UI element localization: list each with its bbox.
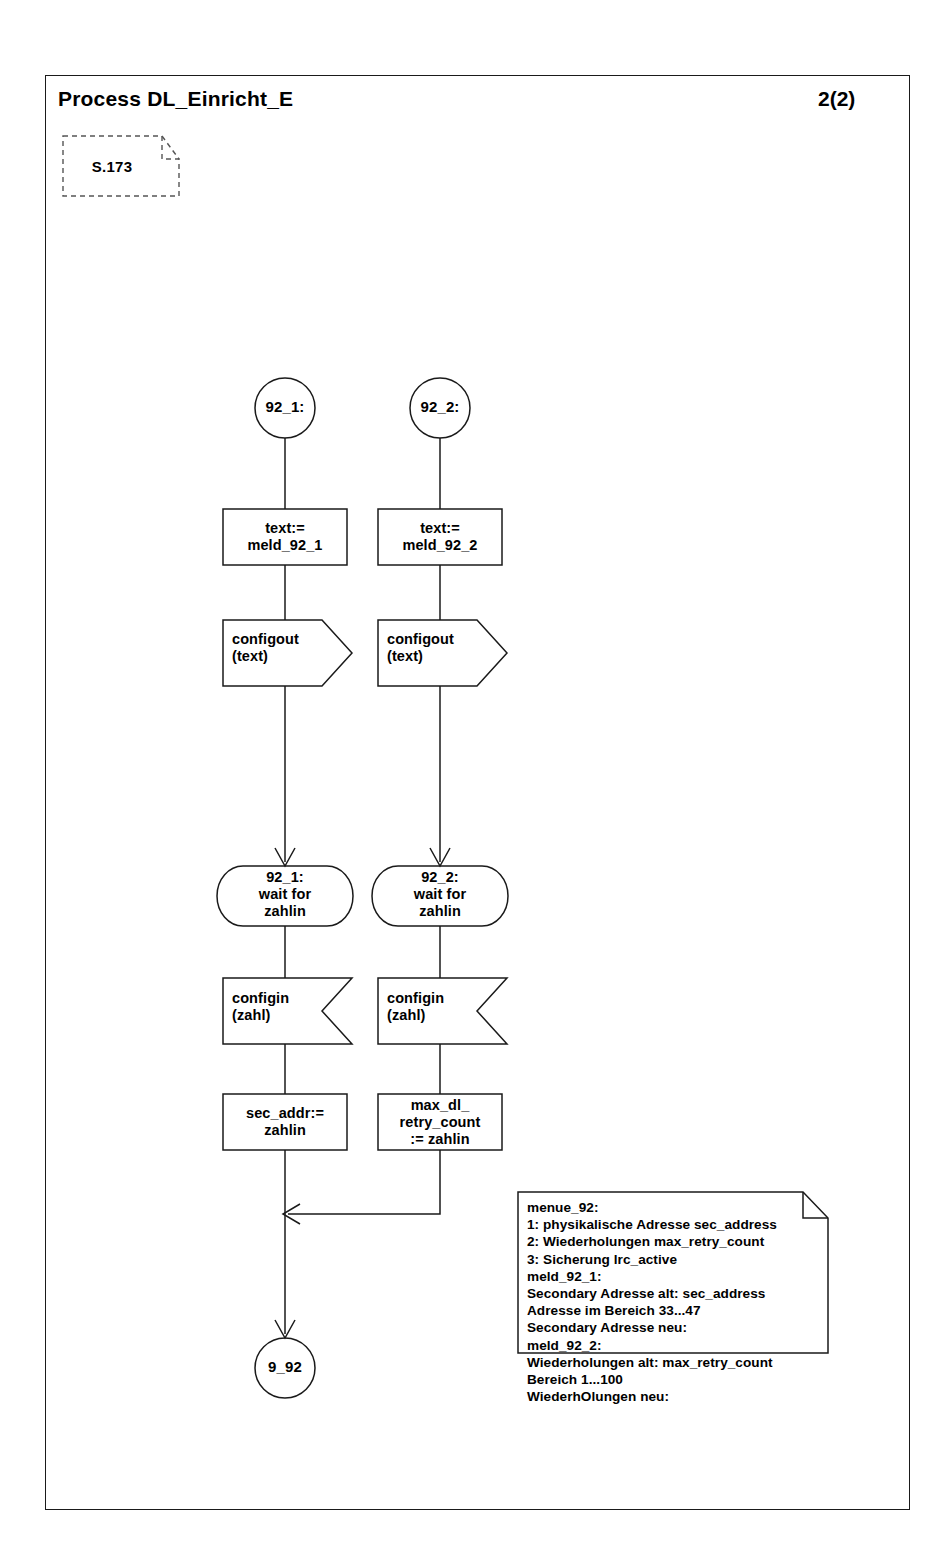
branch-2-state-label: 92_2: wait for zahlin (398, 869, 482, 920)
reference-box-label: S.173 (62, 135, 162, 197)
terminal-state-label: 9_92 (245, 1358, 325, 1375)
reference-box[interactable]: S.173 (62, 135, 180, 197)
branch-2-task-result-label: max_dl_ retry_count := zahlin (378, 1097, 502, 1148)
branch-2-start-state-label: 92_2: (400, 398, 480, 415)
page-title: Process DL_Einricht_E (58, 87, 293, 111)
branch-1-task-assign-label: text:= meld_92_1 (223, 520, 347, 554)
note-box-text: menue_92: 1: physikalische Adresse sec_a… (527, 1199, 817, 1405)
page-number: 2(2) (818, 87, 855, 111)
branch-1-task-result-label: sec_addr:= zahlin (223, 1105, 347, 1139)
branch-2-task-assign-label: text:= meld_92_2 (378, 520, 502, 554)
sdl-diagram-page: Process DL_Einricht_E 2(2) S.173 (0, 0, 949, 1546)
branch-1-state-label: 92_1: wait for zahlin (243, 869, 327, 920)
branch-1-input-label: configin (zahl) (232, 990, 342, 1024)
branch-1-output-label: configout (text) (232, 631, 342, 665)
branch-2-output-label: configout (text) (387, 631, 497, 665)
branch-2-input-label: configin (zahl) (387, 990, 497, 1024)
branch-1-start-state-label: 92_1: (245, 398, 325, 415)
